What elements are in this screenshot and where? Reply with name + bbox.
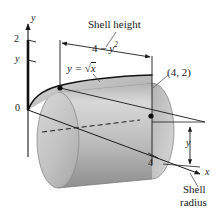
shell-height-label: Shell height [88,19,141,30]
x-tick-label-4: 4 [148,158,153,168]
curve-equation-lhs: y = [67,62,85,74]
curve-equation-radicand: x [91,62,96,74]
shell-radius-label-line2: radius [180,197,207,208]
origin-label: 0 [15,103,20,113]
y-tick-label-2: 2 [14,34,19,44]
curve-equation-label: y = √x [67,62,96,74]
shell-method-figure: y 2 y 0 x 4 Shell height 4 − y2 y = √x (… [0,0,223,221]
point-on-curve-dot [57,85,62,90]
shell-height-expression: 4 − y2 [92,41,118,54]
point-label-leader [153,75,168,88]
shell-height-expression-prefix: 4 − [92,42,109,54]
x-axis-label: x [205,167,209,177]
point-4-2-dot [148,113,153,118]
point-label-4-2: (4, 2) [167,67,191,78]
shell-height-expression-exponent: 2 [114,40,118,49]
y-axis [28,24,36,157]
y-tick-label-y: y [15,54,19,64]
cylinder-front-cap [37,92,79,188]
shell-radius-label-line1: Shell [183,184,206,195]
shell-radius-dimension-label: y [186,138,190,148]
y-axis-label: y [31,13,35,23]
shell-radius-lower-extension [163,164,200,167]
